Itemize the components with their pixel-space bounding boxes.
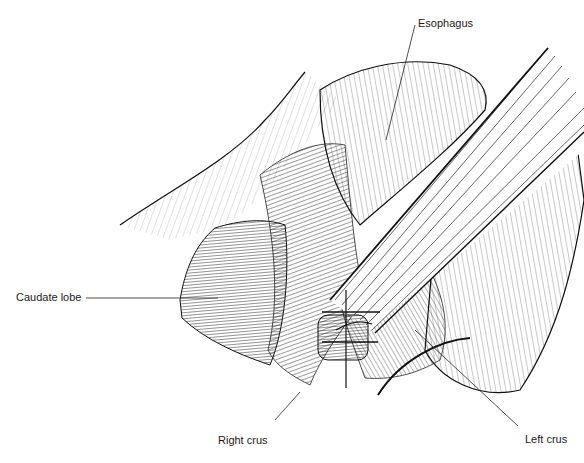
label-right-crus: Right crus: [218, 434, 268, 446]
right-crus-leader: [275, 392, 300, 420]
label-esophagus: Esophagus: [418, 17, 473, 29]
label-caudate-lobe: Caudate lobe: [16, 291, 81, 303]
label-left-crus: Left crus: [525, 433, 567, 445]
anatomy-illustration: [0, 0, 584, 463]
